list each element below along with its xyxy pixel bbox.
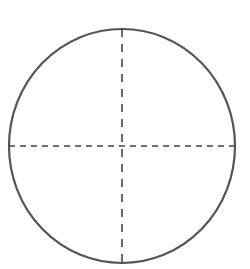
- diagram-canvas: [0, 0, 250, 269]
- circle-crosshair-diagram: [0, 0, 250, 269]
